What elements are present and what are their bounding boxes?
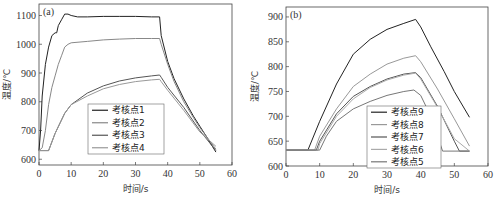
legend-label: 考核点2 [112,117,145,128]
y-tick-label: 700 [21,125,36,136]
x-tick-label: 20 [348,169,358,180]
x-tick-label: 60 [483,169,493,180]
x-tick-label: 60 [227,168,237,179]
chart-b: 0102030405060600650700750800850900时间/s温度… [249,7,493,195]
y-tick-label: 850 [268,36,283,47]
y-axis-title: 温度/℃ [249,71,260,102]
legend-label: 考核点7 [391,131,424,142]
y-tick-label: 650 [268,136,283,147]
y-tick-label: 900 [21,68,36,79]
y-tick-label: 900 [268,11,283,22]
x-tick-label: 10 [66,168,76,179]
x-tick-label: 40 [163,168,173,179]
x-tick-label: 0 [284,169,289,180]
y-tick-label: 1000 [16,39,36,50]
legend: 考核点1考核点2考核点3考核点4 [88,104,164,154]
figure-canvas: 010203040506060070080090010001100时间/s温度/… [0,0,497,202]
legend-label: 考核点6 [391,144,424,155]
panel-label: (a) [43,6,54,18]
y-tick-label: 700 [268,111,283,122]
legend-label: 考核点3 [112,129,145,140]
y-tick-label: 600 [21,154,36,165]
legend-label: 考核点4 [112,142,145,153]
legend: 考核点9考核点8考核点7考核点6考核点5 [367,106,441,168]
panel-label: (b) [290,9,302,21]
chart-a: 010203040506060070080090010001100时间/s温度/… [1,4,237,194]
x-tick-label: 20 [98,168,108,179]
legend-label: 考核点9 [391,106,424,117]
x-tick-label: 0 [37,168,42,179]
y-tick-label: 800 [21,96,36,107]
y-tick-label: 800 [268,61,283,72]
y-tick-label: 600 [268,161,283,172]
x-tick-label: 10 [315,169,325,180]
legend-label: 考核点1 [112,104,145,115]
x-tick-label: 50 [449,169,459,180]
x-tick-label: 50 [195,168,205,179]
x-tick-label: 30 [382,169,392,180]
x-tick-label: 30 [131,168,141,179]
y-axis-title: 温度/℃ [1,69,12,100]
x-axis-title: 时间/s [123,183,149,194]
y-tick-label: 750 [268,86,283,97]
y-tick-label: 1100 [16,10,36,21]
x-tick-label: 40 [416,169,426,180]
legend-label: 考核点8 [391,119,424,130]
legend-label: 考核点5 [391,156,424,167]
x-axis-title: 时间/s [374,184,400,195]
